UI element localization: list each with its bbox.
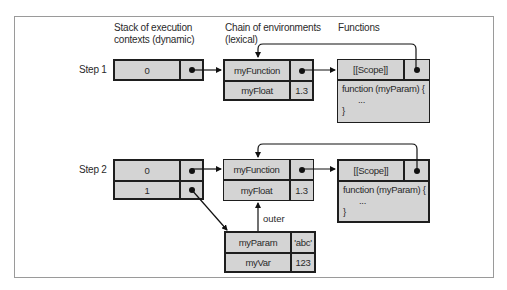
arrow-scope-to-env (258, 44, 416, 70)
arrow-scope-to-env (258, 144, 417, 169)
arrow-stack1-to-inner-env (191, 189, 227, 230)
arrows-layer (0, 0, 507, 290)
